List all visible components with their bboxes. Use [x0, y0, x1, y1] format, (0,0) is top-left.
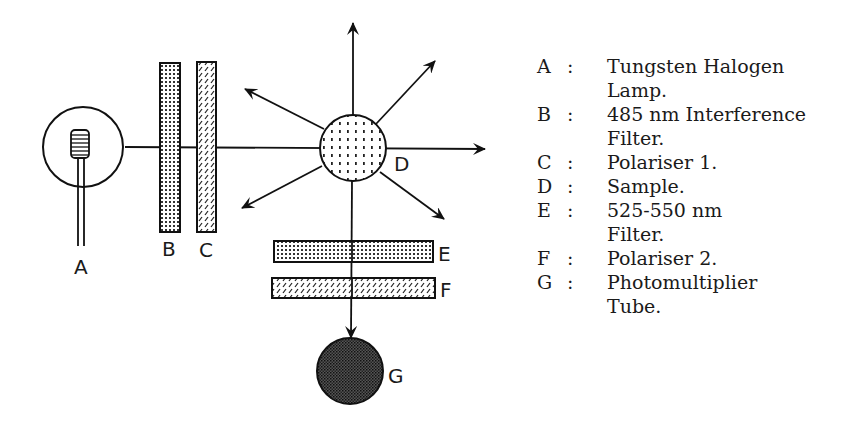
label-g: G: [388, 364, 404, 388]
legend-key: G: [537, 270, 567, 318]
legend-key: B: [537, 102, 567, 150]
legend-description: Photomultiplier Tube.: [607, 270, 757, 318]
legend-description: 525-550 nm Filter.: [607, 198, 722, 246]
legend-separator: :: [567, 246, 607, 270]
lamp-a: A: [43, 107, 123, 279]
legend-item-a: A : Tungsten Halogen Lamp.: [537, 54, 806, 102]
arrow-lower-left: [242, 166, 322, 208]
legend-description: Polariser 2.: [607, 246, 717, 270]
legend-separator: :: [567, 150, 607, 174]
legend-key: D: [537, 174, 567, 198]
label-e: E: [438, 242, 451, 266]
legend-item-c: C : Polariser 1.: [537, 150, 806, 174]
filter-b: B: [160, 63, 180, 261]
polariser-f: F: [272, 278, 452, 302]
legend-key: E: [537, 198, 567, 246]
legend-separator: :: [567, 54, 607, 102]
label-a: A: [74, 255, 88, 279]
legend-key: A: [537, 54, 567, 102]
legend-description: Sample.: [607, 174, 685, 198]
legend-key: C: [537, 150, 567, 174]
legend-separator: :: [567, 198, 607, 246]
legend-separator: :: [567, 174, 607, 198]
legend-separator: :: [567, 102, 607, 150]
polariser-c: C: [197, 62, 216, 262]
legend-description: Polariser 1.: [607, 150, 717, 174]
label-d: D: [394, 152, 409, 176]
legend-item-g: G : Photomultiplier Tube.: [537, 270, 806, 318]
legend: A : Tungsten Halogen Lamp. B : 485 nm In…: [537, 54, 806, 318]
legend-item-f: F : Polariser 2.: [537, 246, 806, 270]
legend-item-d: D : Sample.: [537, 174, 806, 198]
legend-item-e: E : 525-550 nm Filter.: [537, 198, 806, 246]
legend-item-b: B : 485 nm Interference Filter.: [537, 102, 806, 150]
label-f: F: [440, 278, 452, 302]
filter-e: E: [274, 241, 451, 266]
legend-description: Tungsten Halogen Lamp.: [607, 54, 784, 102]
arrow-lower-right: [380, 172, 444, 219]
label-c: C: [199, 238, 213, 262]
legend-separator: :: [567, 270, 607, 318]
legend-description: 485 nm Interference Filter.: [607, 102, 806, 150]
arrow-upper-right: [376, 61, 435, 124]
legend-key: F: [537, 246, 567, 270]
optical-setup-diagram: A B C D E F G: [0, 0, 530, 424]
label-b: B: [162, 237, 176, 261]
arrow-upper-left: [245, 89, 324, 129]
photomultiplier-g: G: [317, 338, 404, 404]
lamp-filament-coil-icon: [71, 130, 89, 158]
